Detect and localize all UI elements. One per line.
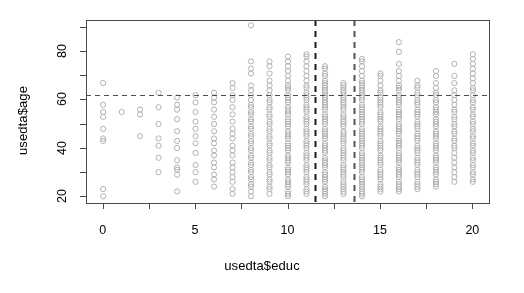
x-tick-label: 10 (281, 223, 295, 237)
plot-area-canvas (0, 0, 524, 293)
x-tick-label: 5 (192, 223, 199, 237)
y-tick-label: 20 (55, 189, 69, 203)
x-tick-label: 15 (373, 223, 387, 237)
y-axis-title: usedta$age (15, 61, 30, 181)
y-tick-label: 60 (55, 93, 69, 107)
y-tick-label: 40 (55, 141, 69, 155)
y-tick-label: 80 (55, 44, 69, 58)
x-tick-label: 0 (99, 223, 106, 237)
x-tick-label: 20 (465, 223, 479, 237)
x-axis-title: usedta$educ (0, 258, 524, 273)
scatter-plot-figure: usedta$educ usedta$age 05101520 20406080 (0, 0, 524, 293)
